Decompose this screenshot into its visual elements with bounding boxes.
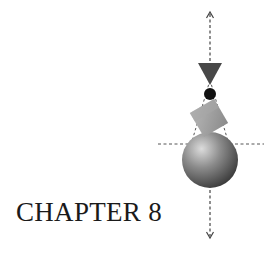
cube-shape bbox=[190, 99, 228, 137]
triangle-shape bbox=[198, 63, 222, 85]
chapter-title: CHAPTER 8 bbox=[16, 197, 162, 227]
sphere-shape bbox=[182, 132, 238, 188]
axis-down-arrow-icon bbox=[207, 190, 214, 238]
axis-up-arrow-icon bbox=[207, 12, 214, 62]
dot-shape bbox=[204, 88, 216, 100]
